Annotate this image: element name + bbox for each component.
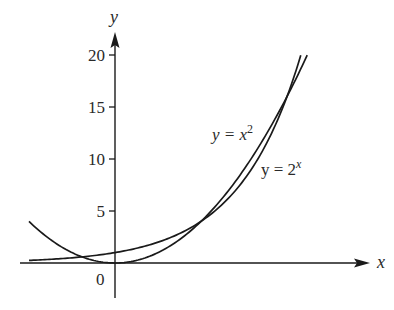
label-two-to-x-sup: x: [295, 157, 302, 171]
y-tick-label: 15: [88, 98, 105, 117]
graph: 5101520 y x 0 y = x2 y = 2x: [0, 0, 394, 310]
x-axis-label: x: [376, 252, 385, 272]
label-x-squared-sup: 2: [247, 122, 253, 136]
curve-two-to-x: [29, 55, 301, 260]
label-two-to-x: y = 2x: [261, 157, 302, 179]
y-axis-label: y: [108, 7, 118, 27]
y-tick-label: 10: [88, 150, 105, 169]
label-x-squared-text: y = x: [210, 125, 248, 144]
origin-label: 0: [96, 270, 105, 289]
label-x-squared: y = x2: [210, 122, 253, 144]
label-two-to-x-text: y = 2: [261, 160, 296, 179]
y-tick-label: 20: [88, 46, 105, 65]
y-tick-label: 5: [97, 202, 106, 221]
y-ticks: 5101520: [88, 46, 115, 221]
